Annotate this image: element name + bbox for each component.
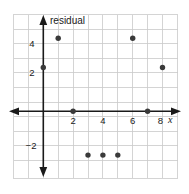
x-axis-title: x xyxy=(167,114,173,125)
x-tick-label-4: 4 xyxy=(100,115,105,126)
residual-scatter-chart: residual x 4 2 −2 2 4 6 8 xyxy=(0,0,189,194)
data-point xyxy=(100,152,105,157)
data-point xyxy=(145,109,150,114)
x-tick-label-6: 6 xyxy=(130,115,135,126)
y-tick-label-4: 4 xyxy=(29,38,34,49)
data-point xyxy=(56,36,61,41)
x-tick-label-8: 8 xyxy=(158,115,163,126)
plot-area-background xyxy=(14,15,178,179)
data-point xyxy=(160,65,165,70)
y-axis-title: residual xyxy=(50,15,85,26)
y-tick-label-neg2: −2 xyxy=(26,140,37,151)
data-point xyxy=(130,36,135,41)
x-tick-label-2: 2 xyxy=(70,115,75,126)
y-tick-label-2: 2 xyxy=(29,67,34,78)
data-point xyxy=(85,152,90,157)
data-point xyxy=(70,109,75,114)
data-point xyxy=(41,65,46,70)
residual-plot-figure: residual x 4 2 −2 2 4 6 8 xyxy=(0,0,189,194)
data-point xyxy=(115,152,120,157)
